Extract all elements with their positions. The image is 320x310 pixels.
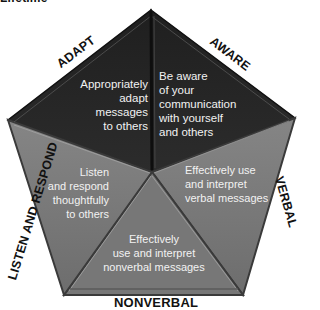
text-line: verbal messages [185, 191, 285, 205]
text-line: messages [60, 105, 148, 119]
text-line: to others [30, 207, 109, 221]
label-nonverbal: NONVERBAL [114, 295, 194, 310]
text-line: Effectively [92, 232, 216, 246]
text-line: of your [159, 83, 259, 97]
text-line: Appropriately [60, 77, 148, 91]
text-line: and others [159, 125, 259, 139]
text-line: to others [60, 119, 148, 133]
text-line: communication [159, 97, 259, 111]
text-line: adapt [60, 91, 148, 105]
text-line: nonverbal messages [92, 260, 216, 274]
segment-adapt-text: Appropriately adapt messages to others [60, 77, 148, 133]
segment-nonverbal-text: Effectively use and interpret nonverbal … [92, 232, 216, 274]
text-line: and interpret [185, 177, 285, 191]
text-line: use and interpret [92, 246, 216, 260]
text-line: with yourself [159, 111, 259, 125]
segment-aware-text: Be aware of your communication with your… [159, 69, 259, 139]
